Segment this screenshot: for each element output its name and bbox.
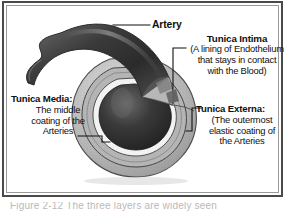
- label-tunica-media: Tunica Media: The middle coating of the …: [11, 94, 105, 137]
- figure-caption-clipped: Figure 2-12 The three layers are widely …: [10, 202, 270, 211]
- artery-diagram-figure: Artery Tunica Intima (A lining of Endoth…: [0, 0, 287, 211]
- label-tunica-media-line3: Arteries: [11, 126, 105, 137]
- label-artery-title: Artery: [152, 19, 182, 31]
- label-tunica-externa-line3: the Arteries: [196, 136, 287, 147]
- label-tunica-externa: Tunica Externa: (The outermost elastic c…: [196, 104, 287, 147]
- label-artery: Artery: [152, 19, 182, 31]
- label-tunica-intima-line3: with the Blood): [183, 66, 287, 77]
- figure-caption-text: Figure 2-12 The three layers are widely …: [10, 202, 270, 211]
- bulb-shadow: [84, 177, 188, 185]
- label-tunica-intima-line2: that stays in contact: [183, 55, 287, 66]
- label-tunica-intima: Tunica Intima (A lining of Endothelium t…: [183, 33, 287, 76]
